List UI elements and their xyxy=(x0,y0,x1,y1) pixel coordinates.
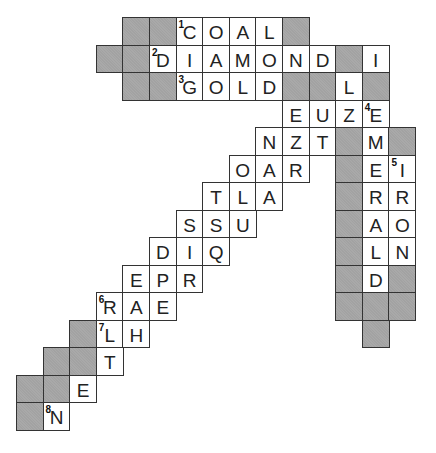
cell-letter: N xyxy=(262,133,276,152)
letter-cell[interactable]: O xyxy=(255,45,283,74)
cell-letter: Z xyxy=(290,133,302,152)
letter-cell[interactable]: 5I xyxy=(388,155,416,184)
letter-cell[interactable]: M xyxy=(229,45,257,74)
letter-cell[interactable]: L xyxy=(362,237,390,266)
cell-letter: O xyxy=(395,216,410,235)
letter-cell[interactable]: Z xyxy=(282,127,310,156)
cell-letter: D xyxy=(156,243,170,262)
letter-cell[interactable]: 1C xyxy=(176,17,204,46)
cell-letter: G xyxy=(182,78,197,97)
block-cell xyxy=(309,72,337,101)
letter-cell[interactable]: 2D xyxy=(149,45,177,74)
letter-cell[interactable]: N xyxy=(388,237,416,266)
letter-cell[interactable]: L xyxy=(229,72,257,101)
clue-number: 6 xyxy=(99,294,105,305)
cell-letter: I xyxy=(187,243,192,262)
cell-letter: D xyxy=(262,78,276,97)
letter-cell[interactable]: S xyxy=(176,210,204,239)
letter-cell[interactable]: 8N xyxy=(43,402,71,431)
cell-letter: A xyxy=(263,161,276,180)
block-cell xyxy=(69,347,97,376)
cell-letter: L xyxy=(104,326,115,345)
cell-letter: Q xyxy=(209,243,224,262)
letter-cell[interactable]: 7L xyxy=(96,320,124,349)
letter-cell[interactable]: R xyxy=(388,182,416,211)
letter-cell[interactable]: A xyxy=(362,210,390,239)
letter-cell[interactable]: O xyxy=(202,17,230,46)
cell-letter: E xyxy=(369,161,382,180)
cell-letter: A xyxy=(210,51,223,70)
letter-cell[interactable]: R xyxy=(282,155,310,184)
letter-cell[interactable]: A xyxy=(122,292,150,321)
letter-cell[interactable]: A xyxy=(255,155,283,184)
letter-cell[interactable]: U xyxy=(309,100,337,129)
crossword-grid: 1COAL2DIAMONDI3GOLDLEUZ4ENZTMOARE5ITLARR… xyxy=(0,0,436,453)
letter-cell[interactable]: E xyxy=(149,292,177,321)
block-cell xyxy=(388,127,416,156)
cell-letter: L xyxy=(264,23,275,42)
letter-cell[interactable]: D xyxy=(149,237,177,266)
letter-cell[interactable]: D xyxy=(309,45,337,74)
block-cell xyxy=(16,375,44,404)
block-cell xyxy=(122,45,150,74)
letter-cell[interactable]: 6R xyxy=(96,292,124,321)
block-cell xyxy=(335,292,363,321)
letter-cell[interactable]: T xyxy=(202,182,230,211)
block-cell xyxy=(282,72,310,101)
letter-cell[interactable]: P xyxy=(149,265,177,294)
letter-cell[interactable]: E xyxy=(122,265,150,294)
clue-number: 8 xyxy=(46,404,52,415)
letter-cell[interactable]: I xyxy=(176,237,204,266)
letter-cell[interactable]: O xyxy=(229,155,257,184)
block-cell xyxy=(335,127,363,156)
letter-cell[interactable]: H xyxy=(122,320,150,349)
letter-cell[interactable]: M xyxy=(362,127,390,156)
cell-letter: L xyxy=(344,78,355,97)
letter-cell[interactable]: E xyxy=(69,375,97,404)
letter-cell[interactable]: 3G xyxy=(176,72,204,101)
letter-cell[interactable]: R xyxy=(362,182,390,211)
letter-cell[interactable]: T xyxy=(96,347,124,376)
cell-letter: R xyxy=(103,298,117,317)
cell-letter: R xyxy=(369,188,383,207)
letter-cell[interactable]: T xyxy=(309,127,337,156)
letter-cell[interactable]: A xyxy=(229,17,257,46)
letter-cell[interactable]: A xyxy=(202,45,230,74)
letter-cell[interactable]: D xyxy=(255,72,283,101)
letter-cell[interactable]: I xyxy=(176,45,204,74)
cell-letter: L xyxy=(237,188,248,207)
block-cell xyxy=(362,320,390,349)
letter-cell[interactable]: Q xyxy=(202,237,230,266)
cell-letter: A xyxy=(236,23,249,42)
block-cell xyxy=(335,45,363,74)
block-cell xyxy=(388,292,416,321)
clue-number: 5 xyxy=(391,157,397,168)
block-cell xyxy=(149,17,177,46)
letter-cell[interactable]: L xyxy=(335,72,363,101)
cell-letter: S xyxy=(210,216,223,235)
letter-cell[interactable]: A xyxy=(255,182,283,211)
cell-letter: A xyxy=(130,298,143,317)
letter-cell[interactable]: U xyxy=(229,210,257,239)
letter-cell[interactable]: N xyxy=(282,45,310,74)
letter-cell[interactable]: E xyxy=(282,100,310,129)
block-cell xyxy=(335,155,363,184)
letter-cell[interactable]: O xyxy=(202,72,230,101)
letter-cell[interactable]: E xyxy=(362,155,390,184)
letter-cell[interactable]: L xyxy=(229,182,257,211)
cell-letter: O xyxy=(209,78,224,97)
block-cell xyxy=(335,210,363,239)
letter-cell[interactable]: 4E xyxy=(362,100,390,129)
cell-letter: O xyxy=(209,23,224,42)
letter-cell[interactable]: L xyxy=(255,17,283,46)
letter-cell[interactable]: R xyxy=(176,265,204,294)
letter-cell[interactable]: N xyxy=(255,127,283,156)
letter-cell[interactable]: I xyxy=(362,45,390,74)
cell-letter: R xyxy=(183,271,197,290)
letter-cell[interactable]: D xyxy=(362,265,390,294)
cell-letter: D xyxy=(316,51,330,70)
letter-cell[interactable]: S xyxy=(202,210,230,239)
letter-cell[interactable]: O xyxy=(388,210,416,239)
cell-letter: O xyxy=(235,161,250,180)
letter-cell[interactable]: Z xyxy=(335,100,363,129)
